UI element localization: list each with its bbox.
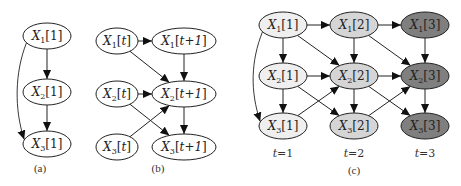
node-label: X2[3]: [409, 69, 441, 85]
node-label: X3[3]: [409, 119, 441, 135]
node-b_x3t: X3[t]: [96, 134, 138, 160]
edge-b_x3t-to-b_x2n: [130, 106, 169, 137]
node-b_x1t: X1[t]: [96, 28, 138, 54]
node-label: X1[1]: [31, 29, 63, 45]
panel-b-transition-network: X1[t]X2[t]X3[t]X1[t+1]X2[t+1]X3[t+1] (b): [96, 28, 216, 175]
time-step-label: t=3: [415, 147, 436, 160]
node-a_x2: X2[1]: [23, 79, 71, 105]
time-step-label: t=2: [344, 147, 365, 160]
node-b_x1n: X1[t+1]: [152, 28, 216, 54]
node-label: X3[2]: [338, 119, 370, 135]
node-label: X1[t+1]: [160, 34, 207, 50]
edge-b_x2t-to-b_x3n: [130, 104, 169, 135]
panel-b-caption: (b): [152, 162, 165, 175]
node-label: X1[t]: [102, 34, 131, 50]
node-label: X2[t]: [102, 87, 131, 103]
node-label: X3[t]: [102, 140, 131, 156]
panel-a-caption: (a): [34, 162, 47, 175]
node-c_x3_1: X3[1]: [259, 113, 307, 139]
panel-a-nodes: X1[1]X2[1]X3[1]: [23, 23, 71, 157]
node-label: X2[1]: [31, 85, 63, 101]
node-c_x1_2: X1[2]: [330, 12, 378, 38]
node-label: X3[1]: [31, 137, 63, 153]
node-c_x3_2: X3[2]: [330, 113, 378, 139]
node-b_x2n: X2[t+1]: [152, 81, 216, 107]
node-c_x1_1: X1[1]: [259, 12, 307, 38]
node-label: X3[1]: [267, 119, 299, 135]
node-label: X3[t+1]: [160, 140, 207, 156]
panel-a-static-network: X1[1]X2[1]X3[1] (a): [17, 23, 71, 175]
bayesian-network-figure: X1[1]X2[1]X3[1] (a) X1[t]X2[t]X3[t]X1[t+…: [0, 0, 461, 186]
node-label: X1[2]: [338, 18, 370, 34]
node-a_x3: X3[1]: [23, 131, 71, 157]
panel-c-caption: (c): [348, 164, 361, 177]
node-c_x2_2: X2[2]: [330, 63, 378, 89]
node-label: X2[2]: [338, 69, 370, 85]
node-label: X1[3]: [409, 18, 441, 34]
node-a_x1: X1[1]: [23, 23, 71, 49]
node-c_x2_3: X2[3]: [401, 63, 449, 89]
node-b_x2t: X2[t]: [96, 81, 138, 107]
panel-b-nodes: X1[t]X2[t]X3[t]X1[t+1]X2[t+1]X3[t+1]: [96, 28, 216, 160]
node-c_x3_3: X3[3]: [401, 113, 449, 139]
time-step-label: t=1: [273, 147, 294, 160]
panel-c-unrolled-network: X1[1]X2[1]X3[1]X1[2]X2[2]X3[2]X1[3]X2[3]…: [253, 12, 449, 177]
panel-c-time-labels: t=1t=2t=3: [273, 147, 436, 160]
edge-b_x1t-to-b_x2n: [130, 51, 169, 82]
edge-c_x1_2-to-c_x2_3: [368, 35, 410, 65]
node-b_x3n: X3[t+1]: [152, 134, 216, 160]
node-label: X2[1]: [267, 69, 299, 85]
node-c_x2_1: X2[1]: [259, 63, 307, 89]
edge-c_x1_1-to-c_x2_2: [297, 35, 339, 65]
node-label: X1[1]: [267, 18, 299, 34]
node-label: X2[t+1]: [160, 87, 207, 103]
panel-c-nodes: X1[1]X2[1]X3[1]X1[2]X2[2]X3[2]X1[3]X2[3]…: [259, 12, 449, 139]
node-c_x1_3: X1[3]: [401, 12, 449, 38]
